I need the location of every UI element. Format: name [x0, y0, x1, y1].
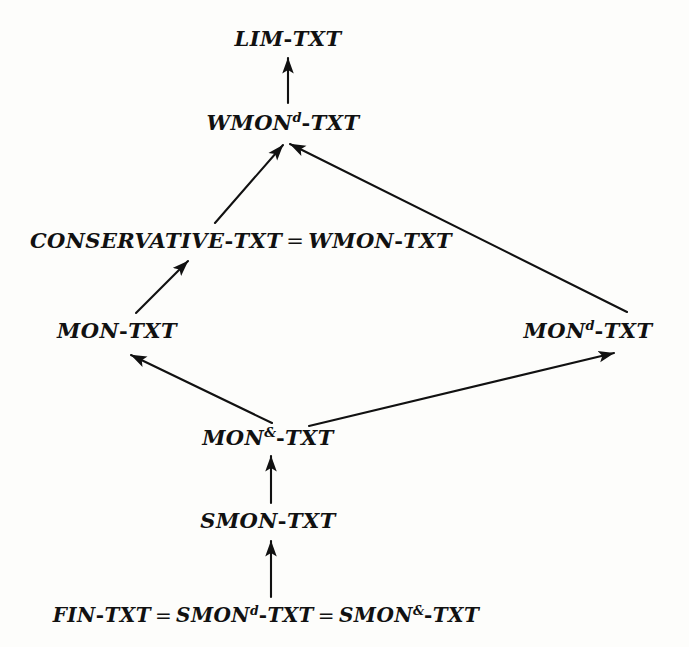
node-mon-txt: MON-TXT	[57, 318, 177, 343]
node-mon-amp-txt: MON&-TXT	[202, 425, 334, 450]
node-lim-suffix: TXT	[293, 26, 342, 51]
node-wmond-suffix: TXT	[311, 110, 360, 135]
node-lim-dash: -	[284, 26, 293, 51]
node-mond-base: MON	[524, 318, 586, 343]
node-cons-suffix-2: TXT	[403, 228, 452, 253]
node-monamp-superscript: &	[264, 425, 276, 440]
node-conservative-txt: CONSERVATIVE-TXT=WMON-TXT	[30, 228, 452, 253]
edge-monamp-to-mon	[131, 355, 272, 423]
node-mond-dash: -	[595, 318, 604, 343]
node-fin-base-3: SMON	[339, 603, 413, 627]
node-wmond-superscript: d	[292, 110, 301, 125]
node-wmon-d-txt: WMONd-TXT	[207, 110, 360, 135]
node-cons-base: CONSERVATIVE	[30, 228, 224, 253]
node-fin-dash-2: -	[259, 603, 268, 627]
node-cons-dash-2: -	[394, 228, 403, 253]
edge-mon-to-cons	[136, 261, 188, 313]
node-smon-txt: SMON-TXT	[200, 508, 335, 533]
node-cons-suffix-1: TXT	[234, 228, 283, 253]
node-fin-superscript-1: d	[250, 603, 259, 618]
node-lim-base: LIM	[235, 26, 284, 51]
node-smon-suffix: TXT	[287, 508, 336, 533]
node-fin-txt: FIN-TXT=SMONd-TXT=SMON&-TXT	[53, 603, 480, 628]
node-mon-dash: -	[119, 318, 128, 343]
node-mond-superscript: d	[585, 318, 594, 333]
node-smon-dash: -	[278, 508, 287, 533]
node-wmond-dash: -	[302, 110, 311, 135]
edge-cons-to-wmond	[215, 145, 283, 223]
node-cons-equals: =	[282, 229, 308, 253]
node-fin-base: FIN	[53, 603, 96, 627]
node-fin-dash-1: -	[96, 603, 105, 627]
node-wmond-base: WMON	[207, 110, 293, 135]
node-fin-superscript-2: &	[413, 603, 424, 618]
node-fin-equals-2: =	[314, 603, 339, 627]
node-fin-suffix-1: TXT	[104, 603, 150, 627]
node-fin-equals-1: =	[151, 603, 176, 627]
node-monamp-suffix: TXT	[285, 425, 334, 450]
diagram-canvas: LIM-TXT WMONd-TXT CONSERVATIVE-TXT=WMON-…	[0, 0, 689, 647]
node-mon-suffix: TXT	[128, 318, 177, 343]
node-mon-base: MON	[57, 318, 119, 343]
node-monamp-base: MON	[202, 425, 264, 450]
node-mond-suffix: TXT	[604, 318, 653, 343]
node-fin-suffix-2: TXT	[267, 603, 313, 627]
node-mon-d-txt: MONd-TXT	[524, 318, 653, 343]
node-cons-dash-1: -	[224, 228, 233, 253]
node-monamp-dash: -	[276, 425, 285, 450]
edge-monamp-to-mond	[309, 353, 614, 426]
node-fin-dash-3: -	[424, 603, 433, 627]
node-smon-base: SMON	[200, 508, 278, 533]
node-cons-base-2: WMON	[308, 228, 394, 253]
node-fin-base-2: SMON	[176, 603, 250, 627]
node-fin-suffix-3: TXT	[433, 603, 479, 627]
node-lim-txt: LIM-TXT	[235, 26, 342, 51]
